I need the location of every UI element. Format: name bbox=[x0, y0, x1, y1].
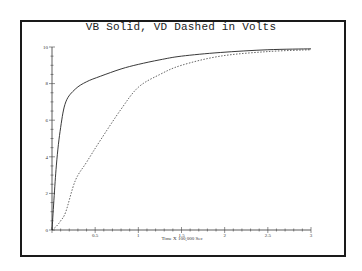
series-vb-line bbox=[52, 49, 311, 230]
y-tick-label: 8 bbox=[46, 81, 49, 86]
y-tick-label: 0 bbox=[46, 228, 49, 233]
x-axis-label: Time X 100,000 Sec bbox=[161, 236, 203, 242]
y-tick-label: 4 bbox=[46, 155, 49, 160]
series-lines bbox=[52, 49, 311, 230]
y-tick-label: 6 bbox=[46, 118, 49, 123]
axes: 0.511.522.530246810 bbox=[43, 45, 313, 238]
x-tick-label: 1 bbox=[137, 233, 140, 238]
x-tick-label: 2.5 bbox=[265, 233, 272, 238]
x-tick-label: 3 bbox=[310, 233, 313, 238]
y-tick-label: 10 bbox=[43, 45, 49, 50]
series-vd-line bbox=[52, 50, 311, 230]
x-tick-label: 0.5 bbox=[92, 233, 99, 238]
y-tick-label: 2 bbox=[46, 191, 49, 196]
line-chart: 0.511.522.530246810 Time X 100,000 Sec bbox=[0, 0, 362, 271]
x-tick-label: 2 bbox=[223, 233, 226, 238]
